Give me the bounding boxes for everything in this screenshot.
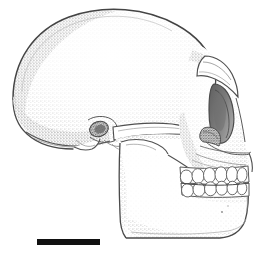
upper-teeth — [180, 166, 249, 185]
scale-bar — [37, 239, 100, 245]
skull-figure: Hominid cranium, left lateral view — [0, 0, 258, 259]
hominid-skull-illustration — [0, 0, 258, 259]
